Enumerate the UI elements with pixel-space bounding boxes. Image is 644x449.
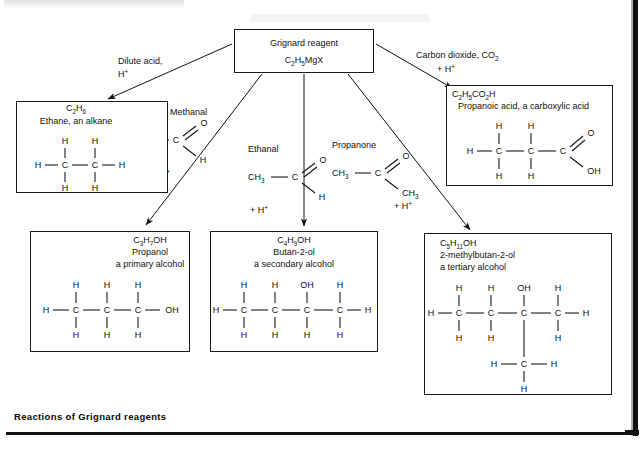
methylbutan-branch-h-right: H bbox=[551, 359, 558, 369]
figure-caption: Reactions of Grignard reagents bbox=[14, 411, 167, 422]
methylbutan-class: a tertiary alcohol bbox=[440, 262, 506, 272]
methylbutan-h-top-2: H bbox=[488, 283, 495, 293]
methylbutan-c3: C bbox=[521, 308, 528, 318]
methylbutan-formula: C5H11OH bbox=[440, 238, 477, 250]
caption-rule bbox=[6, 432, 634, 435]
methylbutan-group-oh: OH bbox=[517, 283, 531, 293]
methylbutan-branch-h-bot: H bbox=[521, 384, 528, 394]
methylbutan-h-bot-1: H bbox=[456, 333, 463, 343]
methylbutan-h-left: H bbox=[428, 308, 435, 318]
methylbutan-c1: C bbox=[456, 308, 463, 318]
methylbutan-c2: C bbox=[488, 308, 495, 318]
methylbutan-name: 2-methylbutan-2-ol bbox=[440, 250, 515, 260]
methylbutan-branch-c: C bbox=[521, 359, 528, 369]
methylbutan-h-top-4: H bbox=[555, 283, 562, 293]
methylbutan-h-bot-4: H bbox=[555, 333, 562, 343]
methylbutan-h-bot-2: H bbox=[488, 333, 495, 343]
methylbutan-branch-h-left: H bbox=[491, 359, 498, 369]
methylbutan-c4: C bbox=[555, 308, 562, 318]
methylbutan-h-right: H bbox=[583, 308, 590, 318]
figure-sheet: Grignard reagent C2H5MgX Dilute acid, H+ bbox=[0, 0, 644, 449]
methylbutan-2-ol-content: C5H11OH 2-methylbutan-2-ol a tertiary al… bbox=[0, 0, 644, 449]
methylbutan-h-top-1: H bbox=[456, 283, 463, 293]
